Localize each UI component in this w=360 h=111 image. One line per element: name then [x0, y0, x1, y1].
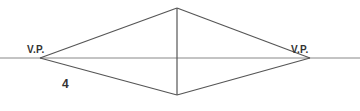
right-bottom-convergence-line [177, 58, 310, 95]
perspective-drawing [0, 0, 360, 111]
vanishing-point-right-label: V.P. [291, 45, 309, 55]
left-bottom-convergence-line [40, 58, 177, 95]
vanishing-point-left-label: V.P. [27, 45, 45, 55]
left-top-convergence-line [40, 8, 177, 58]
figure-number-label: 4 [62, 78, 69, 90]
